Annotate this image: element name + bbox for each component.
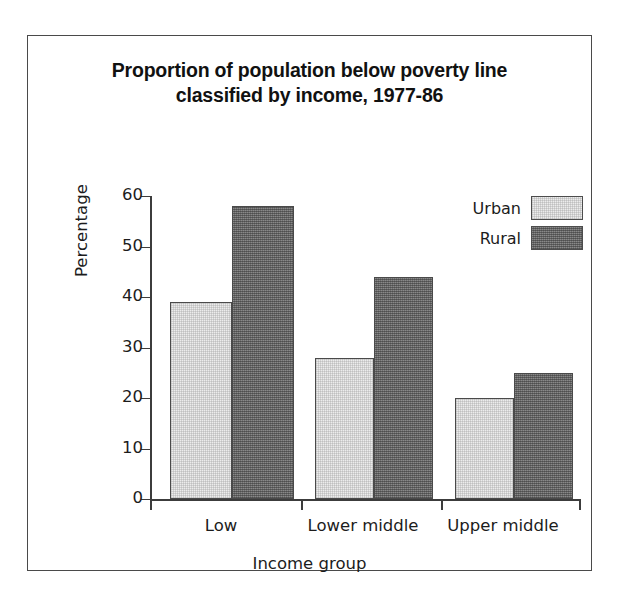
x-tick-mark-2	[441, 499, 443, 510]
figure-frame: Proportion of population below poverty l…	[27, 35, 592, 571]
x-category-label-upper-middle: Upper middle	[433, 516, 573, 535]
x-tick-mark-1	[301, 499, 303, 510]
bar-urban-upper-middle	[455, 398, 514, 499]
bar-urban-lower-middle	[315, 358, 374, 499]
plot-area: 0 10 20 30 40 50 60	[150, 196, 581, 499]
y-tick-label: 0	[133, 488, 144, 507]
bar-urban-low	[170, 302, 232, 499]
x-tick-mark-end	[579, 499, 581, 510]
x-axis-title: Income group	[28, 554, 591, 573]
y-tick-label: 40	[122, 286, 143, 305]
x-tick-mark-start	[150, 499, 152, 510]
x-category-label-low: Low	[151, 516, 291, 535]
y-tick-label: 20	[122, 387, 143, 406]
x-category-label-lower-middle: Lower middle	[293, 516, 433, 535]
y-tick-label: 10	[122, 438, 143, 457]
y-tick-label: 50	[122, 236, 143, 255]
bar-rural-upper-middle	[514, 373, 573, 499]
chart-title-line-2: classified by income, 1977-86	[28, 83, 591, 108]
y-axis-title: Percentage	[72, 257, 91, 277]
y-axis-line	[150, 196, 152, 499]
bar-rural-lower-middle	[374, 277, 433, 499]
bar-rural-low	[232, 206, 294, 499]
chart-title: Proportion of population below poverty l…	[28, 58, 591, 108]
chart-title-line-1: Proportion of population below poverty l…	[28, 58, 591, 83]
y-tick-label: 60	[122, 185, 143, 204]
x-axis-line	[150, 499, 581, 501]
y-tick-label: 30	[122, 337, 143, 356]
